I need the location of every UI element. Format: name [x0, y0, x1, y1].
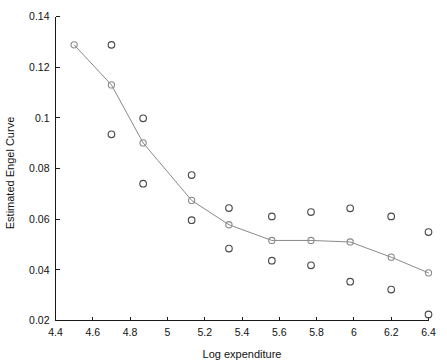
y-tick-label: 0.12 [29, 61, 50, 73]
observed-data-point [347, 205, 354, 212]
observed-data-point [269, 213, 276, 220]
axes-group [56, 17, 429, 321]
observed-data-point [188, 217, 195, 224]
x-tick-label: 5.8 [309, 326, 324, 338]
x-axis-title: Log expenditure [203, 348, 282, 360]
x-tick-label: 6.2 [384, 326, 399, 338]
observed-data-point [308, 262, 315, 269]
observed-data-point [388, 213, 395, 220]
observed-data-point [108, 131, 115, 138]
x-tick-label: 5.6 [272, 326, 287, 338]
observed-data-point [226, 245, 233, 252]
y-tick-label: 0.14 [29, 10, 50, 22]
x-tick-label: 5.2 [197, 326, 212, 338]
x-tick-label: 6.4 [421, 326, 436, 338]
observed-data-point [140, 115, 147, 122]
observed-data-point [308, 209, 315, 216]
engel-curve-chart: 0.020.040.060.080.10.120.144.44.64.855.2… [0, 0, 447, 364]
y-tick-label: 0.08 [29, 162, 50, 174]
x-tick-label: 5 [164, 326, 170, 338]
x-tick-label: 5.4 [235, 326, 250, 338]
y-axis-title: Estimated Engel Curve [4, 117, 16, 230]
tick-labels-group: 0.020.040.060.080.10.120.144.44.64.855.2… [29, 10, 436, 337]
x-tick-label: 4.6 [85, 326, 100, 338]
engel-curve-path [74, 45, 428, 273]
observed-data-point [347, 278, 354, 285]
y-tick-label: 0.02 [29, 314, 50, 326]
x-tick-label: 6 [351, 326, 357, 338]
y-tick-label: 0.1 [35, 112, 50, 124]
observed-data-point [226, 205, 233, 212]
observed-points-markers [108, 42, 432, 318]
axis-lines [56, 17, 429, 321]
engel-curve-line [74, 45, 428, 273]
x-tick-label: 4.8 [123, 326, 138, 338]
observed-data-point [269, 257, 276, 264]
observed-data-point [108, 42, 115, 49]
observed-data-point [425, 229, 432, 236]
observed-data-point [140, 180, 147, 187]
ticks-group [56, 17, 429, 321]
observed-data-point [188, 172, 195, 179]
engel-curve-markers [71, 42, 432, 276]
y-tick-label: 0.06 [29, 213, 50, 225]
chart-plot-area: 0.020.040.060.080.10.120.144.44.64.855.2… [0, 0, 447, 364]
y-tick-label: 0.04 [29, 264, 50, 276]
observed-data-point [388, 286, 395, 293]
x-tick-label: 4.4 [48, 326, 63, 338]
